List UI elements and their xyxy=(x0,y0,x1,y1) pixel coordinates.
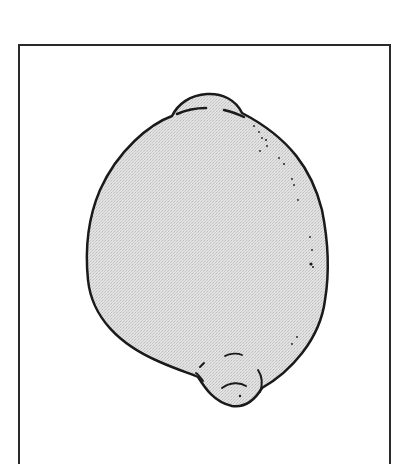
lemon-body xyxy=(87,94,328,406)
tip-dot xyxy=(239,395,241,397)
